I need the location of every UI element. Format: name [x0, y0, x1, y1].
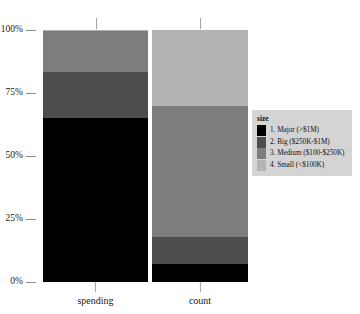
legend-label: 3. Medium ($100-$250K)	[270, 148, 344, 159]
x-tick-label: spending	[77, 294, 113, 308]
y-tick-mark	[26, 156, 36, 157]
x-tick-mark	[95, 282, 96, 292]
y-axis: 100%75%50%25%0%	[0, 30, 36, 282]
bar-segment[interactable]	[152, 264, 248, 282]
bar-segment[interactable]	[152, 30, 248, 106]
bar-column-count[interactable]	[152, 30, 248, 282]
legend-item[interactable]: 2. Big ($250K-$1M)	[257, 137, 348, 149]
legend-label: 1. Major (>$1M)	[270, 125, 319, 136]
bar-segment[interactable]	[152, 237, 248, 265]
top-tick-mark	[200, 18, 201, 29]
x-tick-count: count	[189, 282, 211, 308]
y-tick-label: 100%	[1, 23, 23, 36]
y-tick-mark	[26, 30, 36, 31]
legend-swatch	[257, 125, 266, 136]
bar-segment[interactable]	[43, 31, 148, 71]
legend-item[interactable]: 4. Small (<$100K)	[257, 160, 348, 172]
bar-segment[interactable]	[43, 72, 148, 119]
legend-swatch	[257, 137, 266, 148]
bar-column-spending[interactable]	[43, 30, 148, 282]
x-tick-label: count	[189, 294, 211, 308]
y-tick-mark	[26, 282, 36, 283]
x-axis: spendingcount	[36, 282, 250, 314]
legend-item[interactable]: 1. Major (>$1M)	[257, 125, 348, 137]
legend-label: 2. Big ($250K-$1M)	[270, 137, 330, 148]
bar-segment[interactable]	[43, 118, 148, 282]
x-tick-spending: spending	[77, 282, 113, 308]
legend-item[interactable]: 3. Medium ($100-$250K)	[257, 148, 348, 160]
legend-items: 1. Major (>$1M)2. Big ($250K-$1M)3. Medi…	[257, 125, 348, 171]
chart-root: 100%75%50%25%0% spendingcount size 1. Ma…	[0, 0, 360, 314]
legend-title: size	[257, 114, 348, 124]
y-tick-label: 0%	[10, 275, 23, 288]
legend-swatch	[257, 148, 266, 159]
x-tick-mark	[200, 282, 201, 292]
y-tick-mark	[26, 219, 36, 220]
legend: size 1. Major (>$1M)2. Big ($250K-$1M)3.…	[252, 110, 352, 176]
bar-segment[interactable]	[152, 106, 248, 237]
y-tick-label: 50%	[6, 149, 23, 162]
legend-swatch	[257, 160, 266, 171]
y-tick-label: 25%	[6, 212, 23, 225]
top-tick-mark	[96, 18, 97, 29]
y-tick-mark	[26, 93, 36, 94]
legend-label: 4. Small (<$100K)	[270, 160, 324, 171]
y-tick-label: 75%	[6, 86, 23, 99]
bar-segment[interactable]	[43, 30, 148, 31]
plot-area	[36, 30, 250, 282]
